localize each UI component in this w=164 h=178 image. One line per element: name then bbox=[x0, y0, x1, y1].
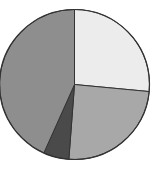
pie-slice bbox=[69, 85, 149, 160]
pie-slices bbox=[0, 10, 149, 160]
pie-slice bbox=[75, 10, 150, 92]
pie-chart bbox=[0, 0, 164, 178]
